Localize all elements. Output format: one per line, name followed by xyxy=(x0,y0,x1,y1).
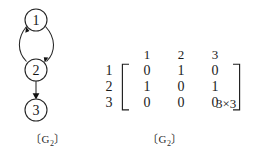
matrix-row-label-3: 3 xyxy=(100,95,121,111)
matrix-cell: 0 xyxy=(130,63,164,79)
graph-caption-name: G xyxy=(42,133,50,145)
edge-2-to-1 xyxy=(19,26,29,61)
graph-node-3-label: 3 xyxy=(33,103,40,118)
matrix-cell: 1 xyxy=(130,79,164,95)
matrix-cell: 1 xyxy=(198,79,232,95)
edge-1-to-2-path xyxy=(46,27,54,62)
matrix-cell: 0 xyxy=(164,95,198,111)
matrix-caption-name: G xyxy=(159,133,167,145)
graph-node-1[interactable]: 1 xyxy=(25,9,47,31)
matrix-cell: 0 xyxy=(130,95,164,111)
matrix-column-header-3: 3 xyxy=(198,46,232,63)
matrix-row: 1 0 1 0 xyxy=(100,63,241,79)
graph-node-2[interactable]: 2 xyxy=(25,59,47,81)
matrix-caption-open-bracket: 〔 xyxy=(147,133,159,145)
matrix-corner-spacer xyxy=(100,46,121,63)
matrix-caption: 〔G2〕 xyxy=(105,130,225,148)
matrix-cell: 0 xyxy=(164,79,198,95)
figure-graph-and-adjacency-matrix: 1 2 3 〔G2〕 1 2 xyxy=(0,0,261,157)
edge-2-to-1-path xyxy=(19,27,26,62)
matrix-header-bracket-spacer-left xyxy=(121,46,130,63)
matrix-panel: 1 2 3 1 0 1 xyxy=(100,0,261,157)
graph-caption-close-bracket: 〕 xyxy=(54,133,66,145)
matrix-column-header-2: 2 xyxy=(164,46,198,63)
graph-node-2-label: 2 xyxy=(33,63,40,78)
matrix-cell: 1 xyxy=(164,63,198,79)
matrix-column-header-row: 1 2 3 xyxy=(100,46,241,63)
matrix-dimension-label: 3×3 xyxy=(216,96,236,112)
graph-caption: 〔G2〕 xyxy=(12,130,84,148)
graph-node-1-label: 1 xyxy=(33,13,40,28)
graph-node-3[interactable]: 3 xyxy=(25,99,47,121)
matrix-row-label-2: 2 xyxy=(100,79,121,95)
matrix-row-label-1: 1 xyxy=(100,63,121,79)
graph-caption-open-bracket: 〔 xyxy=(30,133,42,145)
edge-1-to-2 xyxy=(43,27,54,64)
matrix-left-bracket xyxy=(121,63,130,111)
directed-graph-drawing: 1 2 3 xyxy=(0,0,100,130)
matrix-caption-close-bracket: 〕 xyxy=(171,133,183,145)
matrix-left-bracket-glyph xyxy=(121,63,130,111)
matrix-header-bracket-spacer-right xyxy=(232,46,241,63)
matrix-column-header-1: 1 xyxy=(130,46,164,63)
graph-panel: 1 2 3 〔G2〕 xyxy=(0,0,100,157)
edge-2-to-3 xyxy=(33,81,40,100)
matrix-cell: 0 xyxy=(198,63,232,79)
